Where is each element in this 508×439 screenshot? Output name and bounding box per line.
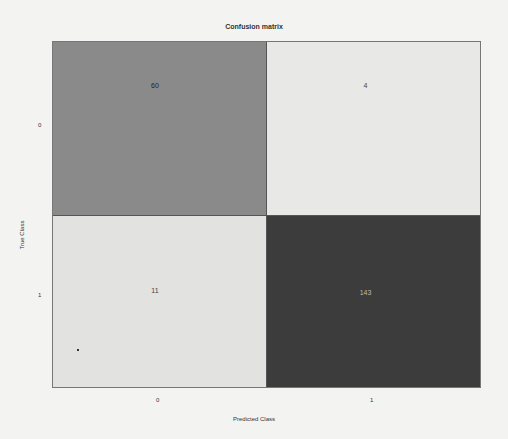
y-axis-label: True Class bbox=[19, 215, 25, 255]
scan-speck bbox=[77, 349, 79, 351]
y-tick-0: 0 bbox=[38, 122, 41, 128]
cell-true1-pred1: 143 bbox=[267, 216, 480, 387]
chart-title: Confusion matrix bbox=[0, 23, 508, 30]
x-axis-label: Predicted Class bbox=[0, 416, 508, 422]
cell-value: 143 bbox=[360, 289, 372, 296]
horizontal-divider bbox=[53, 215, 480, 216]
cell-true1-pred0: 11 bbox=[53, 216, 267, 387]
cell-true0-pred1: 4 bbox=[267, 42, 480, 216]
cell-value: 60 bbox=[151, 82, 159, 89]
y-tick-1: 1 bbox=[38, 292, 41, 298]
cell-value: 11 bbox=[151, 287, 158, 294]
cell-true0-pred0: 60 bbox=[53, 42, 267, 216]
cell-value: 4 bbox=[364, 82, 368, 89]
x-tick-0: 0 bbox=[156, 397, 159, 403]
x-tick-1: 1 bbox=[370, 397, 373, 403]
confusion-matrix: 60 4 11 143 bbox=[52, 41, 481, 388]
